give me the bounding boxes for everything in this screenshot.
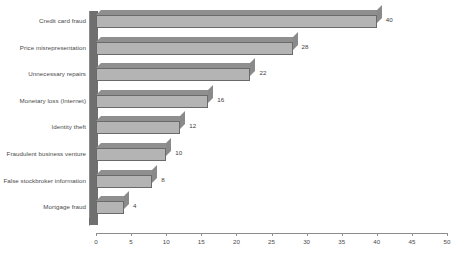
bar[interactable]	[96, 68, 250, 86]
bar-rows: Credit card fraud40Price misrepresentati…	[0, 0, 461, 257]
x-axis-tick-label: 40	[373, 238, 380, 246]
category-label: Unnecessary repairs	[0, 70, 86, 78]
bar[interactable]	[96, 201, 124, 219]
x-axis-tick	[342, 233, 343, 236]
bar-front-face	[96, 201, 124, 214]
bar-row: Credit card fraud40	[0, 11, 461, 37]
bar-row: Monetary loss (Internet)16	[0, 91, 461, 117]
bar-row: Mortgage fraud4	[0, 197, 461, 223]
bar-front-face	[96, 15, 377, 28]
bar[interactable]	[96, 148, 166, 166]
x-axis-tick-label: 45	[408, 238, 415, 246]
bar-row: Identity theft12	[0, 117, 461, 143]
value-label: 16	[217, 96, 224, 104]
value-label: 8	[161, 176, 164, 184]
value-label: 4	[133, 202, 136, 210]
x-axis-tick-label: 10	[163, 238, 170, 246]
value-label: 22	[259, 69, 266, 77]
x-axis-tick	[272, 233, 273, 236]
value-label: 10	[175, 149, 182, 157]
x-axis-tick	[166, 233, 167, 236]
bar-row: False stockbroker information8	[0, 171, 461, 197]
category-label: Credit card fraud	[0, 17, 86, 25]
x-axis-tick	[131, 233, 132, 236]
bar[interactable]	[96, 95, 208, 113]
x-axis-tick-label: 30	[303, 238, 310, 246]
bar[interactable]	[96, 121, 180, 139]
bar-front-face	[96, 42, 293, 55]
x-axis-tick	[96, 233, 97, 236]
bar-front-face	[96, 175, 152, 188]
x-axis: 05101520253035404550	[0, 233, 461, 257]
bar-row: Unnecessary repairs22	[0, 64, 461, 90]
bar-row: Fraudulent business venture10	[0, 144, 461, 170]
bar-side-face	[152, 165, 157, 183]
x-axis-tick-label: 5	[129, 238, 132, 246]
category-label: Price misrepresentation	[0, 44, 86, 52]
value-label: 40	[386, 16, 393, 24]
bar-front-face	[96, 121, 180, 134]
bar-side-face	[166, 138, 171, 156]
bar-side-face	[377, 5, 382, 23]
bar-front-face	[96, 148, 166, 161]
x-axis-tick-label: 25	[268, 238, 275, 246]
x-axis-tick	[201, 233, 202, 236]
bar[interactable]	[96, 42, 293, 60]
bar-row: Price misrepresentation28	[0, 38, 461, 64]
category-label: False stockbroker information	[0, 177, 86, 185]
x-axis-tick	[447, 233, 448, 236]
x-axis-tick-label: 0	[94, 238, 97, 246]
x-axis-tick	[377, 233, 378, 236]
bar-front-face	[96, 95, 208, 108]
bar-side-face	[208, 85, 213, 103]
category-label: Mortgage fraud	[0, 203, 86, 211]
category-label: Fraudulent business venture	[0, 150, 86, 158]
bar-side-face	[124, 191, 129, 209]
value-label: 12	[189, 122, 196, 130]
x-axis-tick-label: 15	[198, 238, 205, 246]
value-label: 28	[302, 43, 309, 51]
x-axis-tick	[236, 233, 237, 236]
x-axis-tick-label: 20	[233, 238, 240, 246]
x-axis-tick-label: 50	[444, 238, 451, 246]
bar-side-face	[250, 58, 255, 76]
bar-chart: Credit card fraud40Price misrepresentati…	[0, 0, 461, 257]
x-axis-tick-label: 35	[338, 238, 345, 246]
x-axis-tick	[412, 233, 413, 236]
category-label: Monetary loss (Internet)	[0, 97, 86, 105]
category-label: Identity theft	[0, 123, 86, 131]
bar[interactable]	[96, 175, 152, 193]
bar-side-face	[180, 111, 185, 129]
bar-front-face	[96, 68, 250, 81]
x-axis-tick	[307, 233, 308, 236]
bar[interactable]	[96, 15, 377, 33]
